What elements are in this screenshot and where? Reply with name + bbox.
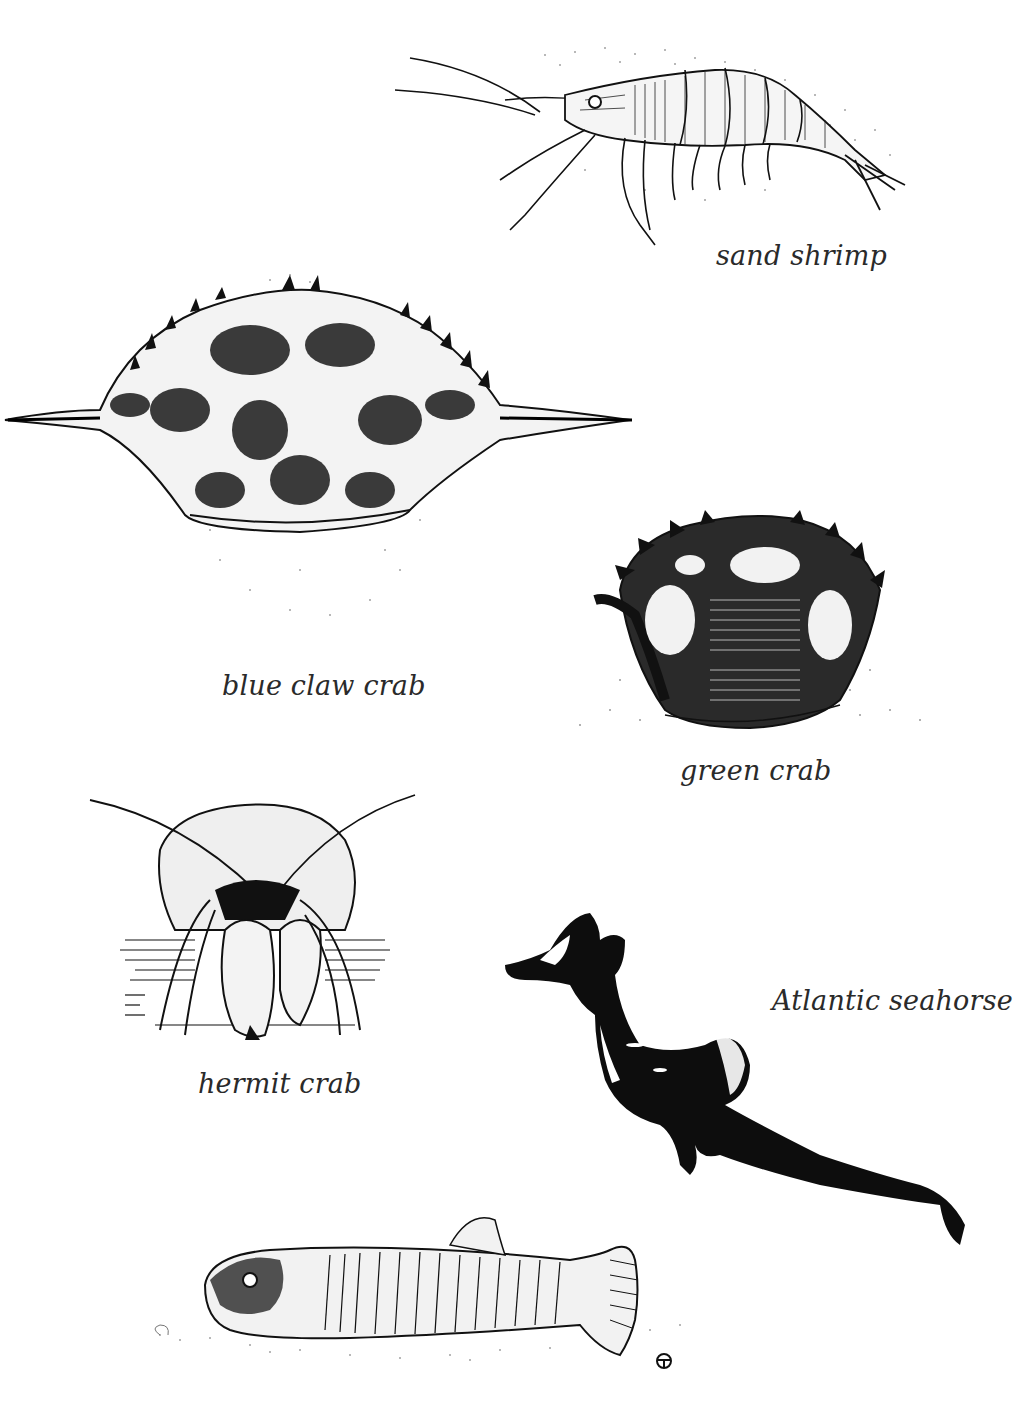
atlantic-seahorse-illustration: [500, 905, 970, 1250]
hermit-crab-illustration: [85, 790, 425, 1050]
shrimp-drawing: [385, 40, 915, 255]
caption-killifish-cropped: [452, 1388, 512, 1401]
seahorse-drawing: [500, 905, 970, 1250]
caption-hermit-crab: hermit crab: [198, 1068, 362, 1099]
blue-claw-crab-illustration: [0, 270, 640, 640]
fish-drawing: [150, 1210, 700, 1375]
caption-green-crab: green crab: [680, 755, 832, 786]
killifish-illustration: [150, 1210, 700, 1375]
caption-sand-shrimp: sand shrimp: [716, 240, 887, 271]
circled-t-monogram-icon: [655, 1352, 673, 1370]
sand-shrimp-illustration: [385, 40, 915, 255]
green-crab-drawing: [560, 500, 940, 740]
hermit-crab-drawing: [85, 790, 425, 1050]
green-crab-illustration: [560, 500, 940, 740]
caption-blue-claw-crab: blue claw crab: [222, 670, 426, 701]
blue-claw-crab-drawing: [0, 270, 640, 640]
caption-atlantic-seahorse: Atlantic seahorse: [772, 985, 1013, 1016]
